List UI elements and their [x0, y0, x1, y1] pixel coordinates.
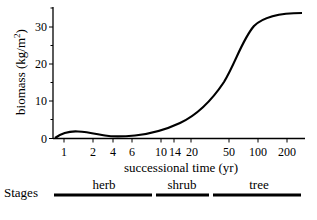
- biomass-chart: 0 10 20 30 biomass (kg/m2) 1 2 4 6 10 14…: [0, 0, 317, 220]
- biomass-curve: [55, 13, 302, 138]
- y-tick-label: 30: [35, 20, 47, 34]
- stages-label: Stages: [4, 185, 38, 200]
- x-tick-label: 100: [249, 145, 267, 159]
- x-tick-label: 2: [90, 145, 96, 159]
- x-tick-label: 10: [155, 145, 167, 159]
- y-axis-title: biomass (kg/m2): [12, 29, 28, 115]
- stage-shrub-label: shrub: [168, 177, 197, 192]
- y-tick-label: 10: [35, 94, 47, 108]
- stage-herb-label: herb: [92, 177, 115, 192]
- y-tick-labels: 0 10 20 30: [35, 20, 47, 146]
- y-tick-label: 0: [41, 132, 47, 146]
- x-tick-label: 20: [186, 145, 198, 159]
- stage-tree-label: tree: [249, 177, 269, 192]
- x-tick-label: 4: [110, 145, 116, 159]
- x-tick-label: 200: [278, 145, 296, 159]
- x-tick-label: 6: [129, 145, 135, 159]
- x-tick-label: 50: [223, 145, 235, 159]
- y-tick-label: 20: [35, 57, 47, 71]
- x-tick-label: 1: [61, 145, 67, 159]
- x-tick-label: 14: [169, 145, 181, 159]
- x-axis-title: successional time (yr): [124, 160, 238, 175]
- x-tick-labels: 1 2 4 6 10 14 20 50 100 200: [61, 145, 296, 159]
